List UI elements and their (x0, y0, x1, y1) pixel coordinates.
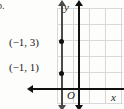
x-axis (33, 88, 124, 90)
graph-line-arrow-down-icon (58, 105, 66, 109)
graph-screenshot: b. y (0, 0, 124, 109)
point-label-upper: (−1, 3) (9, 37, 39, 48)
plotted-point (59, 39, 64, 44)
grid-line-horizontal (57, 56, 123, 57)
grid-line-horizontal (57, 72, 123, 73)
point-label-lower: (−1, 1) (9, 62, 39, 73)
grid-line-horizontal (57, 103, 123, 104)
y-axis (78, 5, 80, 105)
y-axis-arrow-down-icon (75, 105, 83, 109)
x-axis-label: x (111, 92, 116, 103)
grid-line-horizontal (57, 24, 123, 25)
y-axis-arrow-up-icon (75, 0, 83, 6)
grid-line-horizontal (57, 40, 123, 41)
graphed-line (61, 5, 63, 105)
plotted-point (59, 71, 64, 76)
origin-label: O (67, 90, 75, 101)
coordinate-plane: y x O (57, 8, 123, 104)
problem-letter: b. (0, 1, 5, 11)
x-axis-arrow-left-icon (27, 85, 33, 93)
y-axis-label: y (64, 2, 69, 13)
